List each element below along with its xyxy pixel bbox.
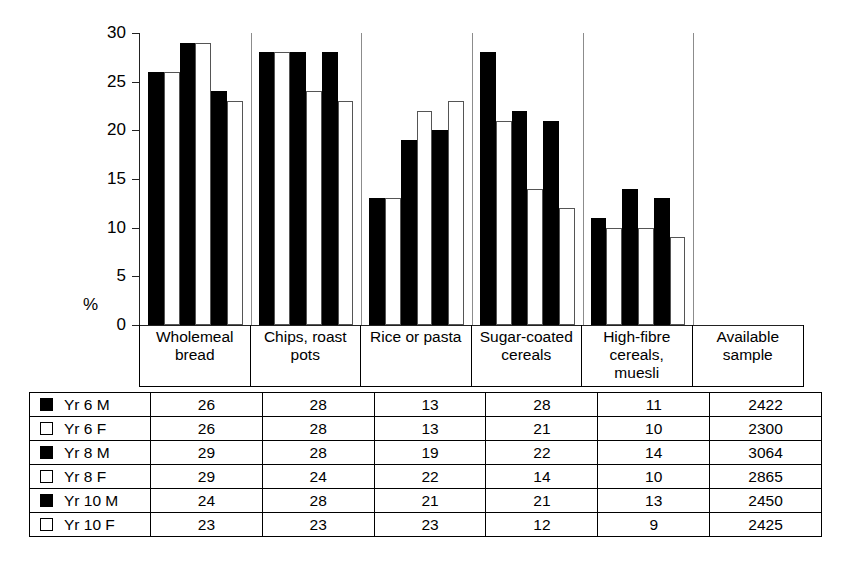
- category-header-cell: High-fibrecereals,muesli: [582, 325, 693, 386]
- filled-square-icon: [40, 398, 53, 411]
- table-cell: 26: [151, 393, 263, 417]
- bar: [306, 91, 322, 325]
- y-tick-mark: [132, 179, 139, 180]
- legend-cell: Yr 10 F: [30, 513, 151, 537]
- legend-label: Yr 6 M: [64, 396, 110, 413]
- legend-cell: Yr 6 F: [30, 417, 151, 441]
- category-header-cell: Rice or pasta: [361, 325, 472, 386]
- table-cell: 29: [151, 441, 263, 465]
- bar: [591, 218, 607, 325]
- table-cell: 23: [151, 513, 263, 537]
- y-tick-mark: [132, 33, 139, 34]
- category-header-line: cereals,: [603, 346, 670, 364]
- table-cell: 28: [262, 489, 374, 513]
- y-tick-label: 0: [96, 316, 126, 333]
- bar: [527, 189, 543, 325]
- category-header-cell: Wholemealbread: [140, 325, 251, 386]
- bar: [401, 140, 417, 325]
- table-row: Yr 10 M24282121132450: [30, 489, 822, 513]
- table-cell: 10: [598, 417, 710, 441]
- bar-group: [251, 33, 362, 325]
- category-header-row: WholemealbreadChips, roastpotsRice or pa…: [139, 325, 804, 387]
- bar: [638, 228, 654, 325]
- table-cell: 2422: [710, 393, 822, 417]
- table-cell: 23: [262, 513, 374, 537]
- table-row: Yr 6 M26281328112422: [30, 393, 822, 417]
- bar: [512, 111, 528, 325]
- table-cell: 3064: [710, 441, 822, 465]
- y-tick-label: 20: [96, 121, 126, 138]
- bar-group: [140, 33, 251, 325]
- table-cell: 13: [374, 417, 486, 441]
- group-separator: [693, 33, 694, 325]
- legend-label: Yr 8 M: [64, 444, 110, 461]
- y-tick-mark: [132, 276, 139, 277]
- bar: [496, 121, 512, 325]
- table-cell: 28: [486, 393, 598, 417]
- open-square-icon: [40, 518, 53, 531]
- bar: [148, 72, 164, 325]
- group-separator: [472, 33, 473, 325]
- table-cell: 2865: [710, 465, 822, 489]
- table-cell: 28: [262, 393, 374, 417]
- bar: [195, 43, 211, 325]
- bar: [290, 52, 306, 325]
- table-cell: 24: [262, 465, 374, 489]
- category-header-line: Chips, roast: [264, 328, 347, 346]
- group-separator: [361, 33, 362, 325]
- category-header-line: Rice or pasta: [370, 328, 461, 346]
- y-tick-label: 5: [96, 267, 126, 284]
- category-header-line: sample: [716, 346, 779, 364]
- y-tick-mark: [132, 82, 139, 83]
- table-cell: 21: [374, 489, 486, 513]
- y-tick-mark: [132, 130, 139, 131]
- bar-chart: % 302520151050: [0, 0, 850, 330]
- table-cell: 10: [598, 465, 710, 489]
- table-cell: 11: [598, 393, 710, 417]
- y-tick-label: 15: [96, 170, 126, 187]
- table-cell: 22: [374, 465, 486, 489]
- table-cell: 29: [151, 465, 263, 489]
- bar: [417, 111, 433, 325]
- bar: [227, 101, 243, 325]
- bar: [164, 72, 180, 325]
- table-cell: 28: [262, 417, 374, 441]
- table-row: Yr 10 F2323231292425: [30, 513, 822, 537]
- table-row: Yr 8 F29242214102865: [30, 465, 822, 489]
- y-tick-label: 25: [96, 73, 126, 90]
- open-square-icon: [40, 422, 53, 435]
- bar: [369, 198, 385, 325]
- category-header-cell: Chips, roastpots: [251, 325, 362, 386]
- table-cell: 21: [486, 417, 598, 441]
- category-header-line: pots: [264, 346, 347, 364]
- chart-figure: % 302520151050 WholemealbreadChips, roas…: [0, 0, 850, 567]
- table-cell: 19: [374, 441, 486, 465]
- table-cell: 12: [486, 513, 598, 537]
- y-tick-label: 30: [96, 24, 126, 41]
- table-cell: 14: [598, 441, 710, 465]
- table-cell: 2425: [710, 513, 822, 537]
- bar: [322, 52, 338, 325]
- bar: [606, 228, 622, 325]
- category-header-line: cereals: [480, 346, 573, 364]
- plot-region: [140, 33, 804, 325]
- bar: [211, 91, 227, 325]
- bar: [543, 121, 559, 325]
- bar-group: [583, 33, 694, 325]
- bar: [259, 52, 275, 325]
- category-header-line: muesli: [603, 364, 670, 382]
- y-tick-mark: [132, 228, 139, 229]
- table-cell: 26: [151, 417, 263, 441]
- bar: [622, 189, 638, 325]
- bar: [559, 208, 575, 325]
- bar: [654, 198, 670, 325]
- legend-cell: Yr 10 M: [30, 489, 151, 513]
- table-cell: 22: [486, 441, 598, 465]
- bar: [180, 43, 196, 325]
- table-cell: 13: [374, 393, 486, 417]
- table-cell: 24: [151, 489, 263, 513]
- category-header-line: Sugar-coated: [480, 328, 573, 346]
- bar-group: [472, 33, 583, 325]
- legend-cell: Yr 8 F: [30, 465, 151, 489]
- bar-group: [361, 33, 472, 325]
